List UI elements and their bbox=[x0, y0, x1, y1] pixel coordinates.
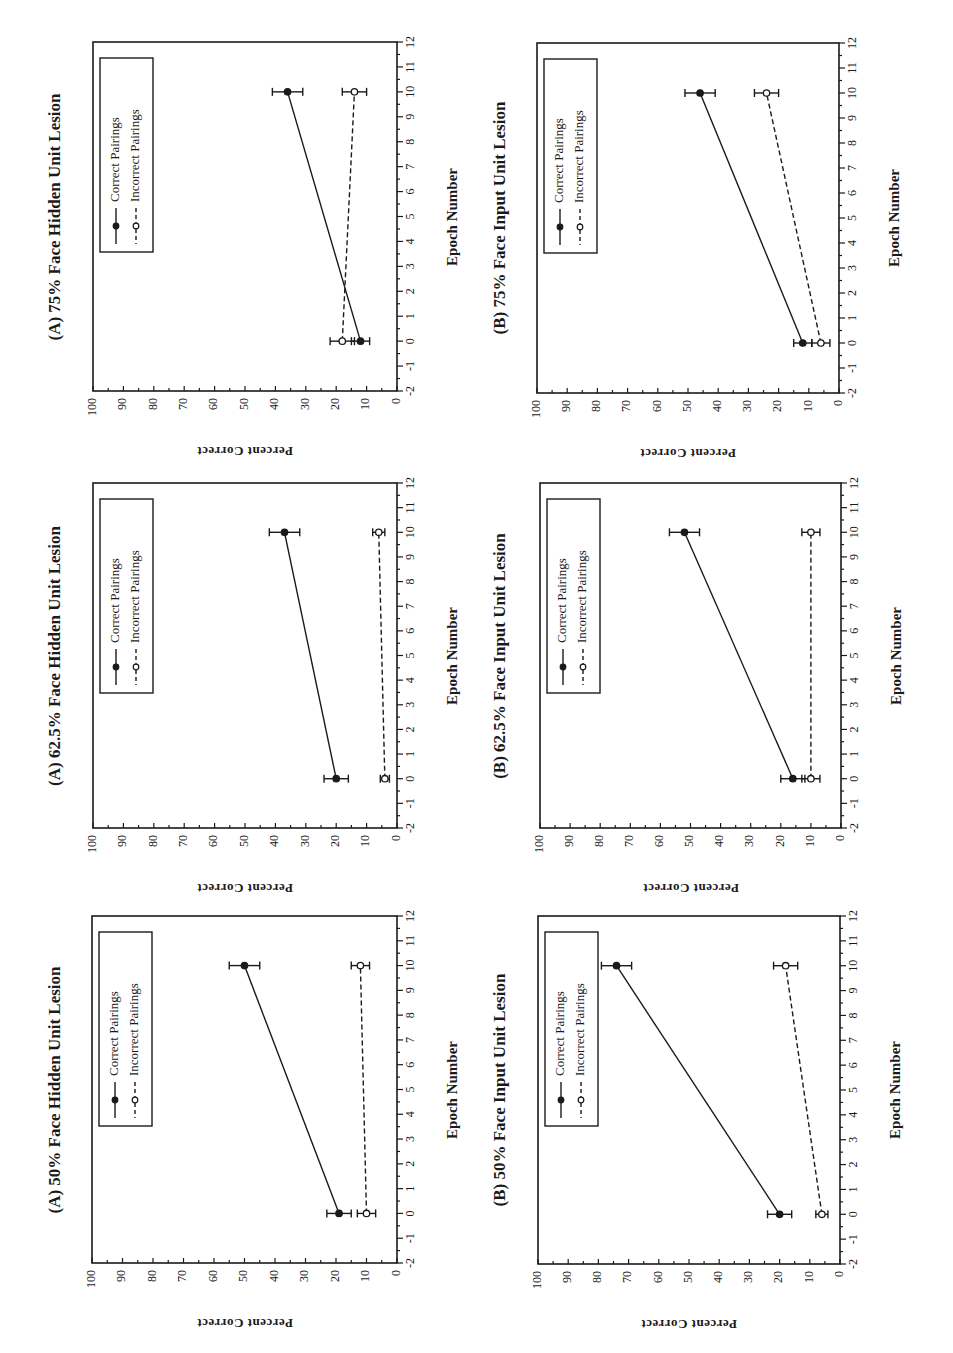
epoch-tick-label: 7 bbox=[403, 164, 417, 170]
percent-tick-label: 10 bbox=[802, 1271, 816, 1283]
open-circle-marker-icon bbox=[133, 664, 139, 670]
epoch-tick-label: 12 bbox=[845, 37, 859, 49]
epoch-axis: -2-10123456789101112 bbox=[397, 477, 417, 833]
error-bar bbox=[380, 775, 389, 783]
percent-tick-label: 50 bbox=[237, 398, 251, 410]
percent-tick-label: 60 bbox=[206, 835, 220, 847]
data-point bbox=[776, 1211, 782, 1217]
percent-tick-label: 80 bbox=[146, 398, 160, 410]
epoch-tick-label: 7 bbox=[846, 1037, 860, 1043]
percent-tick-label: 90 bbox=[560, 1271, 574, 1283]
percent-tick-label: 0 bbox=[389, 835, 403, 841]
error-bar bbox=[351, 337, 369, 345]
epoch-tick-label: 1 bbox=[846, 1186, 860, 1192]
percent-tick-label: 90 bbox=[562, 835, 576, 847]
percent-tick-label: 10 bbox=[801, 400, 815, 412]
series-correct-pairings bbox=[669, 528, 804, 782]
epoch-tick-label: 10 bbox=[845, 87, 859, 99]
chart-plot: 0102030405060708090100-2-101234567891011… bbox=[0, 0, 953, 1353]
epoch-tick-label: 0 bbox=[403, 1210, 417, 1216]
chart-title: (A) 62.5% Face Hidden Unit Lesion bbox=[45, 506, 65, 806]
percent-tick-label: 0 bbox=[389, 398, 403, 404]
percent-tick-label: 0 bbox=[832, 1271, 846, 1277]
percent-tick-label: 80 bbox=[590, 1271, 604, 1283]
filled-circle-marker-icon bbox=[113, 664, 119, 670]
percent-tick-label: 40 bbox=[711, 1271, 725, 1283]
percent-tick-label: 80 bbox=[589, 400, 603, 412]
percent-tick-label: 20 bbox=[328, 835, 342, 847]
percent-tick-label: 40 bbox=[710, 400, 724, 412]
legend: Correct PairingsIncorrect Pairings bbox=[547, 499, 600, 693]
chart-panel-b-75: 0102030405060708090100-2-101234567891011… bbox=[0, 0, 953, 1353]
plot-frame bbox=[93, 483, 397, 828]
error-bar bbox=[812, 339, 830, 347]
epoch-tick-label: 0 bbox=[403, 776, 417, 782]
epoch-tick-label: 11 bbox=[846, 935, 860, 947]
percent-tick-label: 100 bbox=[530, 1271, 544, 1289]
data-point bbox=[808, 776, 814, 782]
epoch-tick-label: 6 bbox=[847, 628, 861, 634]
epoch-tick-label: 9 bbox=[846, 988, 860, 994]
legend-label-correct: Correct Pairings bbox=[107, 558, 122, 643]
percent-tick-label: 40 bbox=[267, 398, 281, 410]
epoch-tick-label: 6 bbox=[403, 189, 417, 195]
chart-plot: 0102030405060708090100-2-101234567891011… bbox=[0, 0, 953, 1353]
percent-tick-label: 30 bbox=[298, 835, 312, 847]
error-bar bbox=[685, 89, 715, 97]
plot-frame bbox=[92, 916, 397, 1263]
epoch-tick-label: 4 bbox=[846, 1112, 860, 1118]
x-axis-label: Epoch Number bbox=[886, 1010, 904, 1170]
percent-tick-label: 60 bbox=[650, 400, 664, 412]
error-bar bbox=[269, 528, 299, 536]
legend-label-incorrect: Incorrect Pairings bbox=[571, 110, 586, 203]
chart-title: (A) 75% Face Hidden Unit Lesion bbox=[45, 67, 65, 367]
x-axis-label: Epoch Number bbox=[443, 137, 461, 297]
open-circle-marker-icon bbox=[577, 224, 583, 230]
percent-tick-label: 30 bbox=[740, 400, 754, 412]
epoch-tick-label: 3 bbox=[847, 702, 861, 708]
percent-tick-label: 100 bbox=[532, 835, 546, 853]
legend: Correct PairingsIncorrect Pairings bbox=[544, 59, 597, 253]
y-axis-label: Percent Correct bbox=[145, 443, 345, 459]
series-correct-pairings bbox=[601, 962, 791, 1219]
epoch-tick-label: 9 bbox=[847, 554, 861, 560]
percent-tick-label: 70 bbox=[619, 400, 633, 412]
percent-tick-label: 20 bbox=[770, 400, 784, 412]
legend-label-incorrect: Incorrect Pairings bbox=[126, 983, 141, 1076]
epoch-tick-label: 0 bbox=[846, 1211, 860, 1217]
epoch-tick-label: 4 bbox=[403, 1111, 417, 1117]
percent-axis: 0102030405060708090100 bbox=[529, 388, 845, 418]
error-bar bbox=[357, 1209, 375, 1217]
epoch-tick-label: 7 bbox=[847, 603, 861, 609]
epoch-tick-label: 8 bbox=[403, 579, 417, 585]
epoch-tick-label: 0 bbox=[403, 338, 417, 344]
data-point bbox=[363, 1210, 369, 1216]
chart-plot: 0102030405060708090100-2-101234567891011… bbox=[0, 0, 953, 1353]
open-circle-marker-icon bbox=[132, 1097, 138, 1103]
chart-panel-a-62-5: 0102030405060708090100-2-101234567891011… bbox=[0, 0, 953, 1353]
epoch-tick-label: 10 bbox=[846, 960, 860, 972]
series-correct-pairings bbox=[685, 89, 812, 347]
percent-tick-label: 90 bbox=[559, 400, 573, 412]
percent-tick-label: 70 bbox=[175, 1270, 189, 1282]
percent-tick-label: 50 bbox=[682, 835, 696, 847]
chart-panel-b-50: 0102030405060708090100-2-101234567891011… bbox=[0, 0, 953, 1353]
data-point bbox=[333, 776, 339, 782]
data-point bbox=[818, 340, 824, 346]
data-point bbox=[763, 90, 769, 96]
legend: Correct PairingsIncorrect Pairings bbox=[100, 499, 153, 693]
chart-panel-a-50: 0102030405060708090100-2-101234567891011… bbox=[0, 0, 953, 1353]
legend-label-correct: Correct Pairings bbox=[552, 991, 567, 1076]
chart-plot: 0102030405060708090100-2-101234567891011… bbox=[0, 0, 953, 1353]
epoch-tick-label: 12 bbox=[403, 36, 417, 48]
data-point bbox=[284, 89, 290, 95]
data-point bbox=[613, 963, 619, 969]
error-bar bbox=[272, 88, 302, 96]
percent-tick-label: 70 bbox=[622, 835, 636, 847]
percent-tick-label: 20 bbox=[771, 1271, 785, 1283]
legend: Correct PairingsIncorrect Pairings bbox=[545, 932, 598, 1126]
error-bar bbox=[342, 88, 366, 96]
epoch-tick-label: -1 bbox=[845, 363, 859, 373]
percent-tick-label: 70 bbox=[620, 1271, 634, 1283]
percent-tick-label: 70 bbox=[176, 398, 190, 410]
